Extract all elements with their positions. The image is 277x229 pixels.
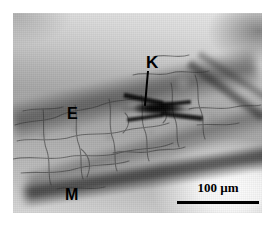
scale-bar-label: 100 µm	[177, 181, 259, 194]
micrograph-image: K E M 100 µm	[13, 13, 262, 213]
label-m: M	[65, 187, 78, 203]
scale-bar: 100 µm	[177, 181, 259, 213]
label-e: E	[67, 106, 78, 122]
label-k: K	[146, 54, 158, 71]
scale-bar-line	[177, 201, 259, 204]
figure-root: K E M 100 µm	[0, 0, 277, 229]
